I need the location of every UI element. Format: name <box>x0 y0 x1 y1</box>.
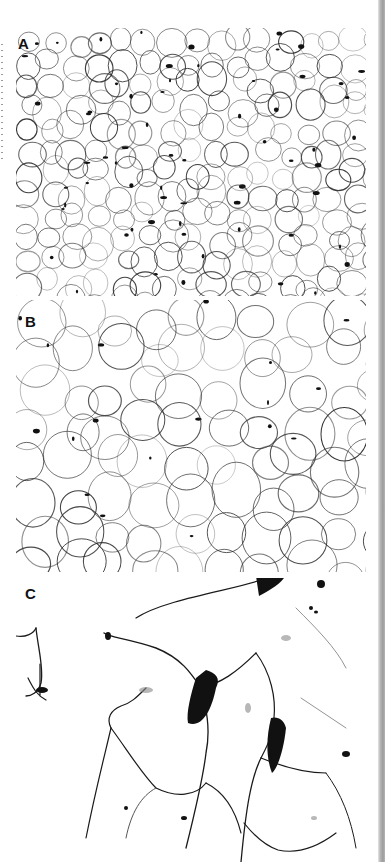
panel-label-a: A <box>18 36 29 51</box>
panel-label-b: B <box>25 314 36 329</box>
panel-a-micrograph: A <box>16 28 366 296</box>
panel-b-micrograph: B <box>16 300 366 572</box>
micrograph-a-image <box>16 28 366 296</box>
page-gutter-shadow <box>378 0 385 862</box>
panel-c-micrograph: C <box>16 578 366 862</box>
adjacent-page-bleed <box>0 0 4 862</box>
panel-label-c: C <box>25 586 36 601</box>
micrograph-c-image <box>16 578 366 862</box>
micrograph-b-image <box>16 300 366 572</box>
